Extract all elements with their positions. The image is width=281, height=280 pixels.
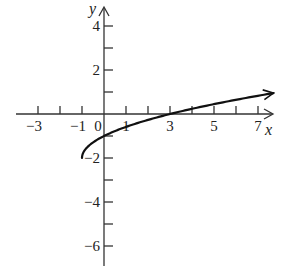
x-tick-label: 5 xyxy=(210,118,218,134)
y-tick-label: 2 xyxy=(93,62,101,78)
y-tick-label: −2 xyxy=(84,150,100,166)
curve-layer xyxy=(82,90,273,158)
function-graph: −3−101357 x 42−2−4−6 y xyxy=(0,0,281,280)
y-tick-label: −6 xyxy=(84,238,100,254)
y-tick-label: 4 xyxy=(93,18,101,34)
function-curve xyxy=(82,93,273,158)
x-tick-label: 7 xyxy=(254,118,262,134)
x-tick-label: −1 xyxy=(70,118,86,134)
x-axis-label: x xyxy=(264,121,272,138)
y-axis-label: y xyxy=(87,0,97,18)
y-tick-label: −4 xyxy=(84,194,100,210)
x-tick-label: 0 xyxy=(94,118,102,134)
x-tick-label: −3 xyxy=(26,118,42,134)
x-ticks xyxy=(38,106,258,114)
y-tick-labels: 42−2−4−6 xyxy=(84,18,100,254)
x-tick-label: 3 xyxy=(166,118,174,134)
